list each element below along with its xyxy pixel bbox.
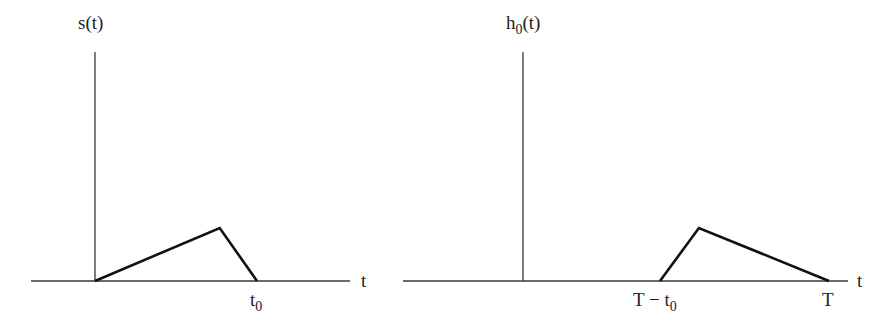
tick-label-T: T [822, 289, 834, 310]
left-x-axis-label: t [361, 270, 367, 291]
tick-label-T-minus-t0: T − t0 [633, 289, 677, 314]
impulse-response-waveform [660, 228, 829, 281]
panel-matched-filter: h0(t) t T − t0 T [403, 12, 863, 314]
matched-filter-diagram: s(t) t t0 h0(t) t T − t0 T [0, 0, 894, 327]
right-x-axis-label: t [857, 270, 863, 291]
panel-signal: s(t) t t0 [31, 12, 367, 314]
signal-waveform [95, 228, 257, 281]
signal-y-label: s(t) [78, 12, 103, 34]
impulse-response-y-label: h0(t) [506, 12, 540, 37]
tick-label-t0: t0 [250, 289, 262, 314]
